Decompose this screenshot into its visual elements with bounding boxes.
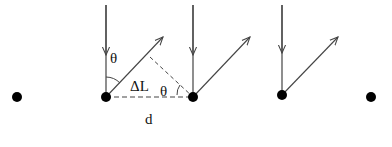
atom-5 [366, 92, 376, 102]
spacing-label: d [145, 111, 153, 127]
theta-label-right: θ [160, 83, 167, 99]
atom-1 [12, 92, 22, 102]
diffracted-ray-3 [282, 37, 338, 95]
atom-2 [101, 92, 111, 102]
diffraction-diagram: θ ΔL θ d [0, 0, 392, 147]
atom-3 [188, 92, 198, 102]
theta-label-top: θ [110, 50, 117, 66]
diffracted-ray-2 [193, 37, 250, 97]
atom-4 [277, 90, 287, 100]
theta-arc-top [106, 77, 120, 83]
path-difference-dashed-line [150, 57, 193, 97]
delta-l-label: ΔL [130, 78, 149, 94]
theta-arc-right [177, 85, 180, 95]
